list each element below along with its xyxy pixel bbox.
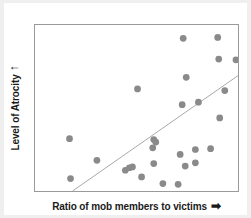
x-axis-label: Ratio of mob members to victims ➡ [52, 200, 221, 212]
scatter-plot-area [34, 24, 239, 192]
x-axis-label-container: Ratio of mob members to victims ➡ [34, 196, 239, 216]
data-point [129, 164, 136, 171]
scatter-plot-svg [35, 25, 238, 191]
data-point [138, 174, 145, 181]
data-point [192, 159, 199, 166]
data-point [182, 163, 189, 170]
y-axis-label-container: Level of Atrocity ↑ [0, 24, 30, 192]
x-axis-label-text: Ratio of mob members to victims [52, 201, 207, 212]
data-point [150, 160, 157, 167]
data-point [215, 56, 222, 63]
data-point [175, 181, 182, 188]
y-axis-label-text: Level of Atrocity [10, 74, 21, 150]
y-axis-label: Level of Atrocity ↑ [9, 65, 21, 150]
data-point [67, 175, 74, 182]
trendline-segment [73, 76, 238, 191]
figure-page: Level of Atrocity ↑ Ratio of mob members… [0, 0, 251, 218]
y-axis-arrow-icon: ↑ [9, 65, 21, 71]
x-axis-arrow-icon: ➡ [211, 200, 221, 212]
data-point [233, 57, 238, 64]
data-point [221, 87, 228, 94]
data-point [195, 99, 202, 106]
data-point [214, 34, 221, 41]
data-point [134, 86, 141, 93]
trendline [73, 76, 238, 191]
data-point [179, 101, 186, 108]
data-point [160, 180, 167, 187]
data-point [94, 157, 101, 164]
data-point [177, 151, 184, 158]
data-point [152, 139, 159, 146]
data-point [192, 146, 199, 153]
data-point [66, 135, 73, 142]
data-point [216, 115, 223, 122]
data-point [183, 74, 190, 81]
data-point [149, 144, 156, 151]
data-point [180, 35, 187, 42]
data-point [207, 145, 214, 152]
data-points [66, 34, 238, 188]
